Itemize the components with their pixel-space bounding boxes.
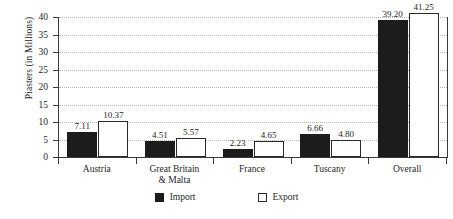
bar-import-tuscany[interactable]: [300, 134, 330, 157]
x-axis-label-tuscany: Tuscany: [291, 164, 369, 175]
bar-export-austria[interactable]: [98, 121, 128, 157]
x-axis-label-france: France: [213, 164, 291, 175]
bar-value-label: 6.66: [307, 123, 323, 133]
y-axis-tick-label: 25: [14, 65, 48, 75]
bar-value-label: 2.23: [230, 138, 246, 148]
bar-export-france[interactable]: [254, 141, 284, 157]
x-axis-label-austria: Austria: [58, 164, 136, 175]
bar-value-label: 5.57: [183, 127, 199, 137]
plot-area: 7.1110.374.515.572.234.656.664.8039.2041…: [58, 17, 448, 158]
x-axis-label-overall: Overall: [368, 164, 446, 175]
bar-import-great-britain-malta[interactable]: [145, 141, 175, 157]
bar-chart: Piasters (in Millions) 4035302520151050 …: [0, 0, 453, 219]
x-axis-label-line: Overall: [368, 164, 446, 175]
legend-item-export[interactable]: Export: [258, 192, 299, 202]
x-axis-label-line: France: [213, 164, 291, 175]
y-axis-tick-label: 40: [14, 12, 48, 22]
legend-item-import[interactable]: Import: [155, 192, 196, 202]
bar-export-overall[interactable]: [409, 13, 439, 157]
x-axis-label-line: Great Britain: [136, 164, 214, 175]
bar-import-austria[interactable]: [67, 132, 97, 157]
y-axis-tick-label: 10: [14, 117, 48, 127]
bar-export-tuscany[interactable]: [331, 140, 361, 157]
bar-value-label: 4.80: [338, 129, 354, 139]
bar-value-label: 7.11: [75, 121, 90, 131]
y-axis-tick-label: 5: [14, 135, 48, 145]
x-axis-label-line: & Malta: [136, 175, 214, 186]
bar-value-label: 10.37: [103, 110, 123, 120]
x-axis-label-line: Austria: [58, 164, 136, 175]
bar-value-label: 4.51: [152, 130, 168, 140]
x-axis-separator: [446, 158, 447, 164]
x-axis-label-great-britain: Great Britain& Malta: [136, 164, 214, 186]
legend-label: Export: [273, 192, 299, 202]
bar-value-label: 4.65: [261, 130, 277, 140]
y-axis-tick-label: 15: [14, 100, 48, 110]
legend-swatch-import-icon: [155, 193, 164, 202]
bar-value-label: 41.25: [414, 2, 434, 12]
legend-swatch-export-icon: [258, 193, 267, 202]
chart-legend: ImportExport: [0, 192, 453, 202]
bar-import-france[interactable]: [223, 149, 253, 157]
x-axis-label-line: Tuscany: [291, 164, 369, 175]
y-axis-tick-label: 20: [14, 82, 48, 92]
y-axis-tick-label: 30: [14, 47, 48, 57]
legend-label: Import: [170, 192, 196, 202]
bar-export-great-britain-malta[interactable]: [176, 138, 206, 157]
y-axis-tick-label: 0: [14, 152, 48, 162]
bar-value-label: 39.20: [383, 9, 403, 19]
y-axis-tick-label: 35: [14, 30, 48, 40]
bar-import-overall[interactable]: [378, 20, 408, 157]
